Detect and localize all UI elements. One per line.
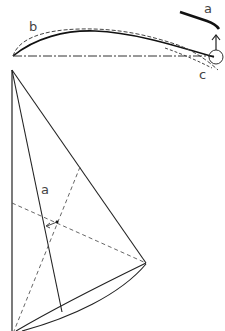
dashed-diagonal-1 [12,203,146,263]
sail-arc-solid [13,31,214,57]
label-a-section: a [204,1,212,16]
foot-curve-upper [16,263,146,331]
section-view: a b c [13,1,223,82]
leech-pivot-circle [209,50,223,64]
center-arrow-icon [46,221,58,228]
foot-curve-lower [22,264,146,331]
label-c: c [199,67,206,82]
thick-stroke-a [180,12,219,29]
plan-view: a [12,70,146,331]
label-b: b [29,19,37,34]
label-a-plan: a [41,182,49,197]
up-arrow-icon [212,35,220,50]
sail-arc-dashed-b [13,29,218,70]
sail-diagram: a b c a [0,0,225,331]
sail-trailing-dashed-c [165,48,212,68]
